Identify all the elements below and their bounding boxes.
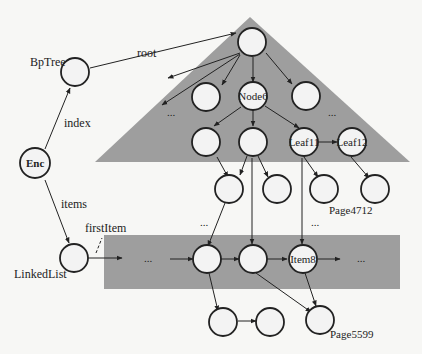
ellipsis: ... xyxy=(144,252,153,264)
page-node xyxy=(256,308,284,336)
diagram-canvas: BpTree root index Enc items firstItem Li… xyxy=(0,0,422,354)
ellipsis: ... xyxy=(311,216,320,228)
root-node xyxy=(238,28,266,56)
page5599-label: Page5599 xyxy=(330,328,374,340)
index-label: index xyxy=(64,116,91,130)
page-node xyxy=(263,175,291,203)
tree-node xyxy=(239,128,267,156)
page4712-label: Page4712 xyxy=(329,204,372,216)
tree-node xyxy=(192,83,220,111)
tree-node xyxy=(292,82,320,110)
items-label: items xyxy=(61,197,87,211)
root-label: root xyxy=(137,46,157,60)
page4712-node xyxy=(361,175,389,203)
bptree-label: BpTree xyxy=(30,55,66,69)
node6-label: Node6 xyxy=(238,90,268,102)
firstitem-label: firstItem xyxy=(85,221,127,235)
item-node xyxy=(239,245,267,273)
linkedlist-label: LinkedList xyxy=(14,267,67,281)
leaf11-label: Leaf11 xyxy=(289,136,320,148)
ellipsis: ... xyxy=(200,216,209,228)
tree-node xyxy=(192,128,220,156)
item-node xyxy=(193,245,221,273)
ellipsis: ... xyxy=(357,252,366,264)
page-node xyxy=(209,308,237,336)
leaf12-label: Leaf12 xyxy=(336,136,367,148)
item8-label: Item8 xyxy=(290,253,316,265)
enc-label: Enc xyxy=(26,157,44,169)
page-node xyxy=(310,175,338,203)
page-node xyxy=(215,175,243,203)
ellipsis: ... xyxy=(328,106,337,118)
ellipsis: ... xyxy=(167,106,176,118)
